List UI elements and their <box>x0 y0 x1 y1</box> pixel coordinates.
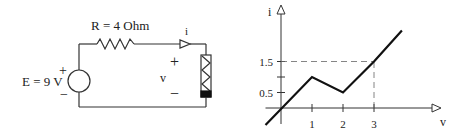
voltage-plus-sign: + <box>170 53 179 70</box>
nonlinear-element-terminal <box>201 91 211 97</box>
voltage-label: v <box>160 71 166 85</box>
y-axis-label: i <box>268 5 272 19</box>
x-tick-label: 3 <box>371 118 377 130</box>
x-axis-label: v <box>440 115 446 129</box>
y-axis-arrow-icon <box>277 5 285 14</box>
y-tick-label: 1.5 <box>259 56 273 68</box>
voltage-source-icon <box>68 70 90 92</box>
x-tick-label: 1 <box>309 118 315 130</box>
resistor-label: R = 4 Ohm <box>91 18 149 33</box>
current-label: i <box>185 25 188 37</box>
diagram-canvas: R = 4 Ohm E = 9 V + − i v + − iv1230.51.… <box>0 0 465 139</box>
x-axis-arrow-icon <box>432 104 441 112</box>
source-plus-sign: + <box>59 63 67 78</box>
x-tick-label: 2 <box>340 118 346 130</box>
voltage-minus-sign: − <box>170 85 179 102</box>
series-line <box>266 31 402 126</box>
circuit <box>68 39 211 107</box>
resistor-icon <box>97 39 134 49</box>
current-arrow-icon <box>180 40 190 48</box>
iv-characteristic-chart: iv1230.51.5 <box>259 5 446 130</box>
source-minus-sign: − <box>60 87 68 102</box>
y-tick-label: 0.5 <box>259 87 273 99</box>
source-label: E = 9 V <box>22 74 63 89</box>
